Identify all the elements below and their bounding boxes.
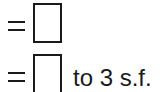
rounding-instruction-label: to 3 s.f. <box>73 65 152 91</box>
answer-row-rounded: to 3 s.f. <box>0 53 166 92</box>
exact-answer-input[interactable] <box>33 3 62 43</box>
answer-row-exact <box>0 2 166 42</box>
rounded-answer-input[interactable] <box>33 54 62 92</box>
equals-sign <box>8 72 25 83</box>
equals-sign <box>8 21 25 32</box>
